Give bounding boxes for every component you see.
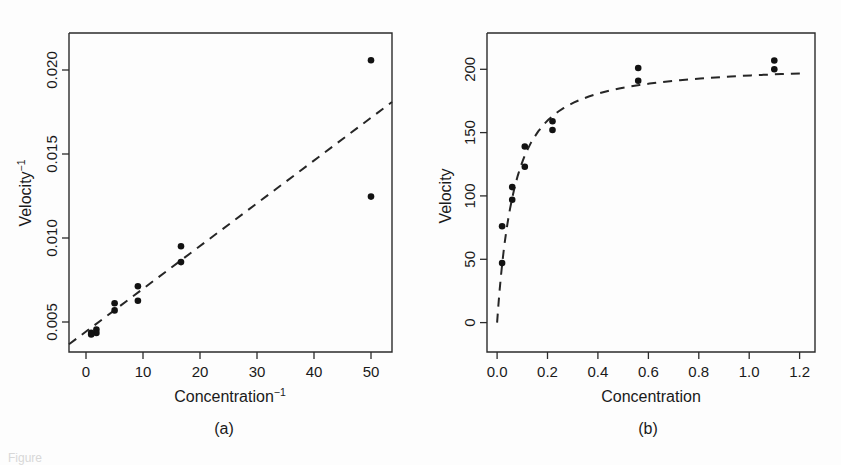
panel-b-xtick-0: 0.0 <box>487 363 508 380</box>
panel-a-xtick-3: 30 <box>249 363 266 380</box>
data-point <box>635 77 642 84</box>
panel-b-xtick-2: 0.4 <box>587 363 608 380</box>
data-point <box>549 127 556 134</box>
data-point <box>111 307 118 314</box>
panel-b-xtick-6: 1.2 <box>789 363 810 380</box>
panel-a-ytick-0: 0.005 <box>43 303 60 341</box>
panel-a-y-axis-title: Velocity−1 <box>15 159 34 226</box>
panel-a-xtick-0: 0 <box>82 363 90 380</box>
panel-a-y-ticks <box>62 70 69 322</box>
data-point <box>509 196 516 203</box>
panel-a-caption: (a) <box>214 420 234 437</box>
panel-b-ytick-0: 0 <box>461 318 478 326</box>
panel-a-xtick-1: 10 <box>135 363 152 380</box>
data-point <box>509 184 516 191</box>
panel-b-y-axis-title: Velocity <box>437 168 454 223</box>
panel-a-xtick-4: 40 <box>306 363 323 380</box>
data-point <box>135 283 142 290</box>
data-point <box>499 223 506 230</box>
data-point <box>522 143 529 150</box>
panel-b-ytick-2: 100 <box>461 183 478 208</box>
panel-b-xtick-4: 0.8 <box>688 363 709 380</box>
data-point <box>499 260 506 267</box>
panel-a-y-tick-labels: 0.005 0.010 0.015 0.020 <box>43 51 60 341</box>
data-point <box>549 118 556 125</box>
panel-a-y-axis-title-sup: −1 <box>15 159 27 171</box>
data-point <box>111 300 118 307</box>
panel-b-plot-box <box>487 33 815 352</box>
panel-b-xtick-5: 1.0 <box>739 363 760 380</box>
panel-a-ytick-1: 0.010 <box>43 219 60 257</box>
data-point <box>368 57 375 64</box>
figure-caption: Figure <box>8 452 828 465</box>
data-point <box>178 259 185 266</box>
panel-a-x-ticks <box>86 352 371 359</box>
panel-b-data-points <box>499 57 778 266</box>
panel-a-svg: 0.005 0.010 0.015 0.020 0 10 20 30 40 <box>0 0 420 465</box>
panel-a-x-axis-title-main: Concentration <box>174 388 274 405</box>
panel-a: 0.005 0.010 0.015 0.020 0 10 20 30 40 <box>0 0 420 465</box>
panel-b-fit-curve <box>497 73 801 322</box>
figure-root: 0.005 0.010 0.015 0.020 0 10 20 30 40 <box>0 0 841 465</box>
panel-b-y-axis-title-main: Velocity <box>437 168 454 223</box>
panel-a-ytick-3: 0.020 <box>43 51 60 89</box>
panel-b-x-tick-labels: 0.0 0.2 0.4 0.6 0.8 1.0 1.2 <box>487 363 810 380</box>
panel-a-y-axis-title-main: Velocity <box>17 171 34 226</box>
data-point <box>88 331 95 338</box>
panel-a-x-axis-title: Concentration−1 <box>174 386 286 405</box>
panel-a-ytick-2: 0.015 <box>43 135 60 173</box>
data-point <box>135 298 142 305</box>
panel-a-x-axis-title-sup: −1 <box>274 386 286 398</box>
data-point <box>635 65 642 72</box>
panel-b-ytick-3: 150 <box>461 120 478 145</box>
panel-b: 0 50 100 150 200 0.0 0.2 0.4 0.6 <box>420 0 841 465</box>
panel-a-x-tick-labels: 0 10 20 30 40 50 <box>82 363 380 380</box>
panel-b-y-tick-labels: 0 50 100 150 200 <box>461 57 478 327</box>
panel-b-ytick-4: 200 <box>461 57 478 82</box>
panel-b-x-ticks <box>497 352 799 359</box>
panel-b-y-ticks <box>480 69 487 322</box>
panel-a-fit-line <box>69 102 392 344</box>
panel-b-x-axis-title: Concentration <box>601 388 701 405</box>
data-point <box>368 193 375 200</box>
panel-b-svg: 0 50 100 150 200 0.0 0.2 0.4 0.6 <box>420 0 841 465</box>
panel-b-ytick-1: 50 <box>461 251 478 268</box>
panel-b-x-axis-title-main: Concentration <box>601 388 701 405</box>
data-point <box>522 164 529 171</box>
data-point <box>771 57 778 64</box>
panel-a-xtick-2: 20 <box>192 363 209 380</box>
data-point <box>178 243 185 250</box>
panel-b-xtick-3: 0.6 <box>638 363 659 380</box>
panel-a-xtick-5: 50 <box>363 363 380 380</box>
panel-a-data-points <box>88 57 374 338</box>
data-point <box>771 66 778 73</box>
panel-b-xtick-1: 0.2 <box>537 363 558 380</box>
panel-b-caption: (b) <box>638 420 658 437</box>
